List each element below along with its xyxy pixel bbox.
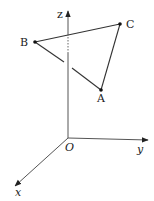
- edge-bc: [35, 24, 120, 42]
- label-z: z: [57, 8, 63, 21]
- label-b: B: [20, 36, 28, 49]
- point-b: [33, 40, 37, 44]
- point-c: [118, 22, 122, 26]
- label-origin: O: [65, 141, 74, 154]
- edge-ca: [101, 24, 120, 90]
- edge-ab-part1: [35, 42, 64, 62]
- y-axis: [68, 138, 148, 140]
- label-y: y: [136, 143, 144, 156]
- label-c: C: [126, 18, 134, 31]
- label-x: x: [15, 186, 22, 199]
- label-a: A: [96, 92, 106, 105]
- edge-ab-part2: [72, 68, 101, 90]
- coordinate-diagram: z B C A O y x: [0, 0, 154, 201]
- x-axis: [15, 138, 68, 186]
